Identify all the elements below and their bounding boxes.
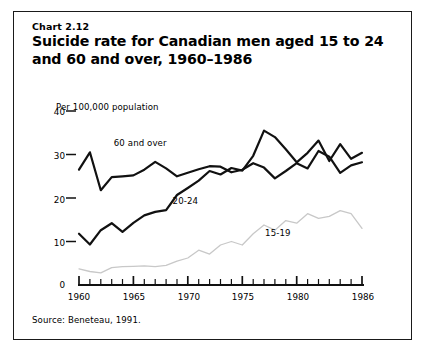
y-tick-label-30: 30: [43, 151, 65, 161]
x-tick-label-1986: 1986: [346, 292, 380, 302]
x-tick-label-1975: 1975: [226, 292, 260, 302]
figure-frame: Chart 2.12 Suicide rate for Canadian men…: [13, 11, 412, 340]
y-axis-tick-dashes: [66, 111, 76, 242]
x-tick-label-1980: 1980: [281, 292, 315, 302]
y-tick-label-20: 20: [43, 195, 65, 205]
plot-area: 40 30 20 10 0 1960 1965 1970 1975 1980 1…: [14, 12, 413, 341]
series-label-60-and-over: 60 and over: [114, 138, 167, 148]
y-tick-label-0: 0: [43, 280, 65, 290]
x-axis-ticks: [79, 276, 362, 285]
series-label-20-24: 20-24: [173, 196, 198, 206]
series-label-15-19: 15-19: [265, 228, 290, 238]
x-tick-label-1965: 1965: [117, 292, 151, 302]
series-line-15-19: [79, 211, 362, 273]
source-note: Source: Beneteau, 1991.: [32, 315, 141, 325]
series-line-60-and-over: [79, 151, 362, 190]
data-series-group: [79, 131, 362, 273]
y-tick-label-40: 40: [43, 107, 65, 117]
x-tick-label-1970: 1970: [172, 292, 206, 302]
x-tick-label-1960: 1960: [62, 292, 96, 302]
series-line-20-24: [79, 131, 362, 245]
y-tick-label-10: 10: [43, 238, 65, 248]
